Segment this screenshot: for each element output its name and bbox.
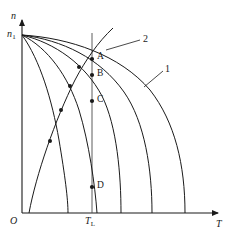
point-label-C: C (97, 95, 103, 105)
speed-torque-characteristic-figure: n T O n1 TL 1 2 A B C D (0, 0, 234, 241)
point-label-A: A (97, 52, 104, 62)
intersection-marker (59, 108, 63, 112)
origin-label: O (10, 216, 17, 226)
tl-subscript: L (91, 220, 95, 228)
characteristic-curve-4 (22, 35, 152, 213)
operating-point-C (90, 99, 94, 103)
point-label-D: D (97, 181, 104, 191)
diagram-canvas (0, 0, 234, 241)
tl-axis-marker: TL (85, 216, 95, 226)
operating-point-A (90, 57, 94, 61)
n1-axis-marker: n1 (7, 29, 16, 39)
intersection-marker (68, 84, 72, 88)
leader-line-2 (106, 40, 140, 50)
intersection-marker (48, 139, 52, 143)
operating-point-B (90, 73, 94, 77)
tl-base: T (85, 215, 91, 226)
curve-label-1: 1 (165, 64, 170, 74)
intersection-marker (77, 65, 81, 69)
curve-label-2: 2 (143, 34, 148, 44)
characteristic-curve-1 (22, 35, 68, 213)
n1-subscript: 1 (12, 33, 16, 41)
y-axis-label: n (11, 11, 16, 21)
x-axis-label: T (216, 219, 222, 229)
point-label-B: B (97, 69, 103, 79)
operating-point-D (90, 185, 94, 189)
leader-line-1 (144, 71, 163, 87)
